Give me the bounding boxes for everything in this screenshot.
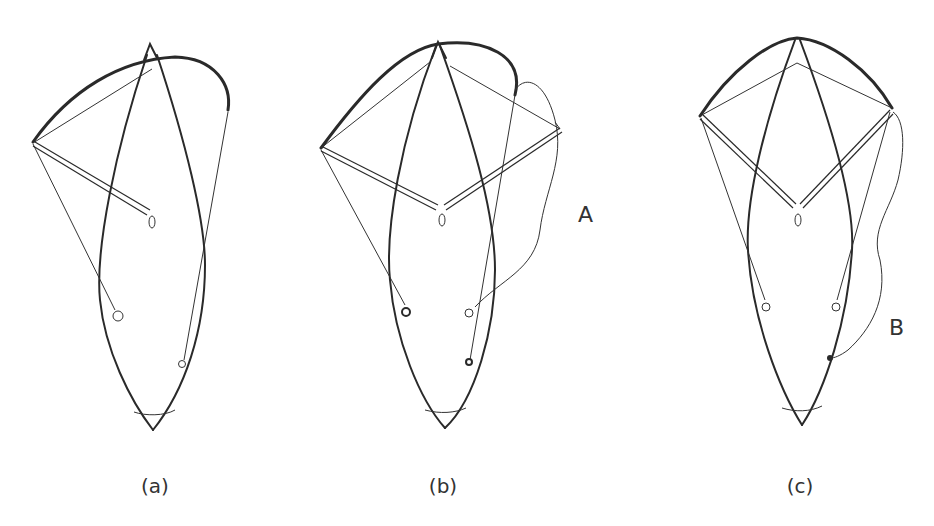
panel-b-drawing bbox=[321, 42, 562, 428]
panel-a-drawing bbox=[33, 44, 229, 430]
caption-panel-a: (a) bbox=[141, 474, 169, 498]
annotation-label-b: B bbox=[889, 315, 904, 340]
caption-panel-b: (b) bbox=[429, 474, 457, 498]
panel-c-drawing bbox=[700, 38, 903, 425]
diagram-canvas bbox=[0, 0, 934, 526]
annotation-label-a: A bbox=[578, 202, 593, 227]
caption-panel-c: (c) bbox=[787, 474, 814, 498]
